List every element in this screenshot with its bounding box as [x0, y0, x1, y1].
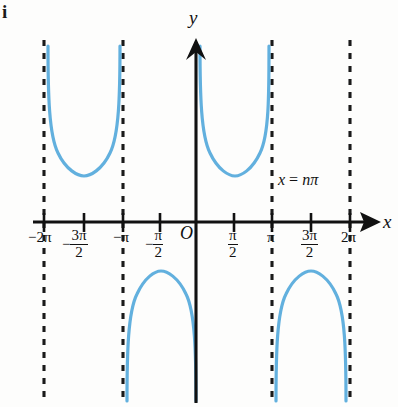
- fraction-numerator: 3π: [301, 228, 318, 244]
- tick-label-minus-pi-2: −π2: [145, 228, 163, 260]
- fraction-numerator: π: [153, 228, 163, 244]
- fraction: π2: [153, 228, 163, 260]
- tick-label-pi-2: π2: [228, 228, 238, 260]
- fraction-denominator: 2: [301, 244, 318, 261]
- fraction-denominator: 2: [153, 244, 163, 261]
- tick-label-3pi-2: 3π2: [301, 228, 318, 260]
- negative-sign: −: [62, 236, 70, 252]
- fraction-denominator: 2: [70, 244, 87, 261]
- fraction-numerator: π: [228, 228, 238, 244]
- tick-label-minus-pi: −π: [113, 230, 129, 245]
- tick-label-minus-3pi-2: −3π2: [62, 228, 88, 260]
- cosecant-graph-plot: [0, 0, 398, 407]
- asymptote-eq-lhs: x: [278, 171, 285, 188]
- fraction: 3π2: [70, 228, 87, 260]
- asymptote-equation-annotation: x = nπ: [278, 172, 318, 188]
- csc-branch-upper-right: [200, 46, 269, 176]
- asymptote-eq-operator: =: [289, 171, 298, 188]
- tick-label-2pi: 2π: [341, 230, 356, 245]
- tick-label-pi: π: [267, 230, 275, 245]
- negative-sign: −: [145, 236, 153, 252]
- asymptote-eq-rhs: nπ: [302, 171, 318, 188]
- origin-label: O: [180, 224, 193, 242]
- figure-container: i: [0, 0, 398, 407]
- csc-branch-lower-left: [127, 271, 196, 401]
- csc-branch-lower-right: [276, 271, 346, 401]
- y-axis-label: y: [189, 8, 197, 27]
- tick-label-minus-2pi: −2π: [28, 230, 52, 245]
- fraction: π2: [228, 228, 238, 260]
- fraction-denominator: 2: [228, 244, 238, 261]
- fraction: 3π2: [301, 228, 318, 260]
- csc-branch-upper-left: [48, 46, 120, 176]
- x-axis-label: x: [383, 212, 391, 231]
- fraction-numerator: 3π: [70, 228, 87, 244]
